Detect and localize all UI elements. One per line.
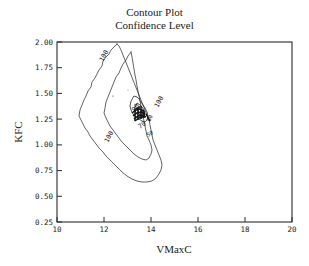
contour-label-100-right: 100 bbox=[153, 95, 166, 109]
plot-canvas: 2.00 1.75 1.50 1.25 1.00 0.75 0.50 0.25 … bbox=[0, 0, 309, 266]
contour-labels: 100 100 100 90 70 80 50 bbox=[98, 49, 166, 144]
y-axis-title: KFC bbox=[12, 121, 24, 142]
contour-path-100-outer bbox=[79, 44, 162, 182]
x-tick-label: 10 bbox=[52, 225, 62, 234]
x-tick-label: 20 bbox=[287, 225, 297, 234]
x-tick-label: 16 bbox=[193, 225, 203, 234]
y-tick-label: 1.25 bbox=[35, 115, 53, 124]
stray-mark bbox=[112, 95, 113, 96]
y-tick-label: 1.75 bbox=[35, 63, 53, 72]
y-tick-marks bbox=[57, 42, 62, 222]
contour-label-80: 80 bbox=[145, 114, 153, 123]
stray-mark bbox=[128, 90, 129, 91]
x-tick-marks bbox=[57, 217, 292, 222]
x-tick-labels: 10 12 14 16 18 20 bbox=[52, 225, 297, 234]
plot-frame bbox=[57, 42, 292, 222]
x-tick-label: 12 bbox=[99, 225, 108, 234]
contour-curves bbox=[79, 44, 162, 182]
y-tick-label: 1.00 bbox=[35, 140, 54, 149]
contour-label-50: 50 bbox=[146, 129, 155, 138]
y-tick-label: 0.50 bbox=[35, 192, 54, 201]
contour-plot-figure: Contour Plot Confidence Level 2.00 1.75 … bbox=[0, 0, 309, 266]
y-tick-labels: 2.00 1.75 1.50 1.25 1.00 0.75 0.50 0.25 bbox=[35, 38, 54, 227]
y-tick-label: 0.75 bbox=[35, 166, 53, 175]
x-tick-label: 14 bbox=[146, 225, 156, 234]
contour-label-100-top-left: 100 bbox=[98, 49, 111, 63]
y-tick-label: 1.50 bbox=[35, 89, 54, 98]
x-axis-title: VMaxC bbox=[156, 243, 191, 255]
y-tick-label: 2.00 bbox=[35, 38, 54, 47]
y-tick-label: 0.25 bbox=[35, 218, 53, 227]
contour-label-100-lower-left: 100 bbox=[103, 130, 116, 144]
x-tick-label: 18 bbox=[240, 225, 250, 234]
